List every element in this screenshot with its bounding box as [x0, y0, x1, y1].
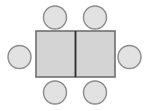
- table-panel-left[interactable]: [36, 31, 76, 77]
- chair-left[interactable]: [8, 46, 31, 69]
- table-panel-right[interactable]: [76, 31, 116, 77]
- table-group[interactable]: [36, 31, 115, 77]
- chair-bottom-left[interactable]: [44, 81, 67, 104]
- chair-top-right[interactable]: [84, 6, 107, 29]
- diagram-canvas: [0, 0, 145, 111]
- chair-bottom-right[interactable]: [84, 81, 107, 104]
- chair-top-left[interactable]: [44, 6, 67, 29]
- chair-right[interactable]: [118, 46, 141, 69]
- table-seating-diagram: [0, 0, 145, 111]
